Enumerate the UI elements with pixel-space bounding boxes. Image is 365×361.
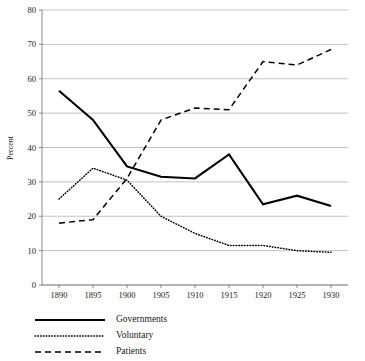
chart-canvas: 01020304050607080 1890189519001905191019… <box>0 0 365 361</box>
legend-label-voluntary: Voluntary <box>116 330 154 340</box>
y-tick-label: 20 <box>28 211 37 221</box>
x-tick-marks-group <box>59 285 331 288</box>
legend-label-patients: Patients <box>116 346 146 356</box>
y-tick-label: 70 <box>28 39 37 49</box>
x-tick-label: 1900 <box>119 290 136 300</box>
gridlines-group <box>42 10 348 285</box>
series-line-voluntary <box>59 168 331 252</box>
x-tick-label: 1905 <box>153 290 170 300</box>
y-tick-label: 50 <box>28 108 37 118</box>
y-axis-title: Percent <box>6 135 15 160</box>
series-group <box>59 50 331 253</box>
y-tick-label: 60 <box>28 74 37 84</box>
x-tick-label: 1915 <box>221 290 238 300</box>
x-tick-label: 1895 <box>85 290 102 300</box>
x-tick-label: 1930 <box>323 290 340 300</box>
y-tick-marks-group <box>39 10 42 285</box>
x-tick-label: 1910 <box>187 290 204 300</box>
x-tick-label: 1925 <box>289 290 306 300</box>
legend-label-governments: Governments <box>116 314 167 324</box>
y-tick-label: 10 <box>28 246 37 256</box>
x-tick-label: 1920 <box>255 290 272 300</box>
legend: GovernmentsVoluntaryPatients <box>35 314 167 356</box>
y-tick-label: 30 <box>28 177 37 187</box>
y-tick-labels-group: 01020304050607080 <box>28 5 37 290</box>
y-tick-label: 0 <box>32 280 36 290</box>
x-tick-labels-group: 189018951900190519101915192019251930 <box>51 290 340 300</box>
line-chart-figure: 01020304050607080 1890189519001905191019… <box>0 0 365 361</box>
y-tick-label: 40 <box>28 143 37 153</box>
x-tick-label: 1890 <box>51 290 68 300</box>
y-tick-label: 80 <box>28 5 37 15</box>
